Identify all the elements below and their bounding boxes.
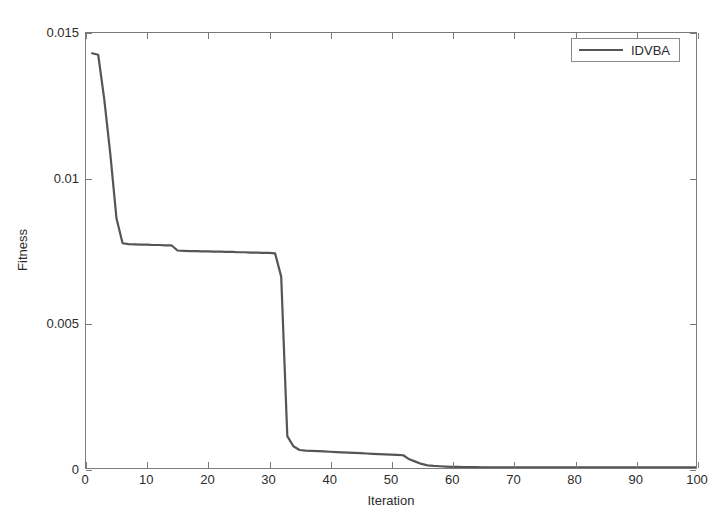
x-tick-mark xyxy=(698,33,699,39)
x-tick-mark xyxy=(514,462,515,468)
x-tick-mark xyxy=(331,462,332,468)
y-tick-mark xyxy=(86,470,92,471)
y-tick-label: 0.015 xyxy=(46,26,79,39)
y-tick-mark xyxy=(690,470,696,471)
y-axis-label: Fitness xyxy=(15,229,30,271)
y-tick-mark xyxy=(690,324,696,325)
y-tick-mark xyxy=(86,324,92,325)
x-tick-label: 30 xyxy=(261,473,275,486)
legend-line-sample-idvba xyxy=(579,49,623,51)
x-tick-label: 100 xyxy=(686,473,708,486)
plot-area xyxy=(85,32,697,469)
y-tick-mark xyxy=(690,33,696,34)
x-tick-label: 80 xyxy=(567,473,581,486)
x-tick-mark xyxy=(453,462,454,468)
y-tick-label: 0.005 xyxy=(46,317,79,330)
line-series-idvba xyxy=(92,53,696,467)
legend-box: IDVBA xyxy=(571,38,680,62)
x-tick-mark xyxy=(147,462,148,468)
x-tick-mark xyxy=(147,33,148,39)
x-tick-label: 10 xyxy=(139,473,153,486)
y-tick-mark xyxy=(690,179,696,180)
x-tick-mark xyxy=(208,33,209,39)
x-tick-label: 60 xyxy=(445,473,459,486)
x-axis-label: Iteration xyxy=(85,493,697,508)
x-tick-mark xyxy=(270,462,271,468)
x-tick-mark xyxy=(331,33,332,39)
y-tick-mark xyxy=(86,179,92,180)
x-tick-label: 50 xyxy=(384,473,398,486)
x-tick-mark xyxy=(392,462,393,468)
y-tick-mark xyxy=(86,33,92,34)
x-tick-mark xyxy=(576,462,577,468)
x-tick-label: 20 xyxy=(200,473,214,486)
x-tick-label: 0 xyxy=(81,473,88,486)
x-tick-mark xyxy=(86,462,87,468)
x-tick-mark xyxy=(453,33,454,39)
x-tick-label: 90 xyxy=(629,473,643,486)
y-tick-label: 0 xyxy=(72,463,79,476)
data-series-svg xyxy=(86,33,696,468)
y-tick-label: 0.01 xyxy=(54,171,79,184)
figure-canvas: Fitness 010203040506070809010000.0050.01… xyxy=(0,0,719,528)
x-tick-mark xyxy=(698,462,699,468)
x-tick-mark xyxy=(208,462,209,468)
x-tick-label: 70 xyxy=(506,473,520,486)
x-tick-mark xyxy=(514,33,515,39)
x-tick-mark xyxy=(637,462,638,468)
x-tick-label: 40 xyxy=(323,473,337,486)
x-tick-mark xyxy=(392,33,393,39)
legend-label-idvba: IDVBA xyxy=(631,44,670,57)
x-tick-mark xyxy=(270,33,271,39)
